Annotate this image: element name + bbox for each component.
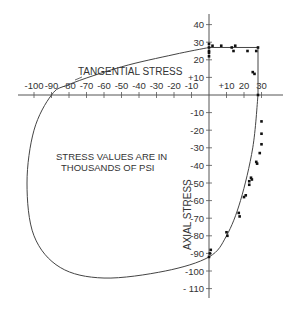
data-point bbox=[256, 162, 259, 165]
x-tick-label: -20 bbox=[167, 80, 181, 91]
data-point bbox=[243, 196, 246, 199]
y-tick-labels: 403020+10-10-20-30-40-50-60-70-80-90-100… bbox=[183, 19, 204, 294]
y-tick-label: 40 bbox=[193, 19, 204, 30]
data-point bbox=[248, 180, 251, 183]
y-axis-label: AXIAL STRESS bbox=[182, 179, 193, 250]
data-point bbox=[238, 215, 241, 218]
y-tick-label: -10 bbox=[190, 107, 204, 118]
x-tick-labels: -100-90-80-70-60-50-40-30-20-10+102030 bbox=[24, 80, 266, 91]
data-point bbox=[246, 50, 249, 53]
data-point bbox=[234, 44, 237, 47]
y-tick-label: 30 bbox=[193, 37, 204, 48]
data-point bbox=[260, 143, 263, 146]
data-point bbox=[211, 44, 214, 47]
data-point bbox=[258, 152, 261, 155]
data-point bbox=[226, 235, 229, 238]
x-tick-label: -60 bbox=[97, 80, 111, 91]
data-point bbox=[230, 46, 233, 49]
data-point bbox=[208, 55, 211, 58]
stress-chart: -100-90-80-70-60-50-40-30-20-10+102030 4… bbox=[0, 0, 295, 309]
x-tick-label: -30 bbox=[150, 80, 164, 91]
data-point bbox=[255, 50, 258, 53]
data-points bbox=[208, 43, 263, 259]
x-tick-label: -100 bbox=[24, 80, 43, 91]
x-axis-label: TANGENTIAL STRESS bbox=[78, 66, 183, 77]
data-point bbox=[237, 212, 240, 215]
data-point bbox=[251, 178, 254, 181]
data-point bbox=[248, 183, 251, 186]
y-tick-label: - 110 bbox=[183, 283, 204, 294]
data-point bbox=[225, 231, 228, 234]
units-note-line-2: THOUSANDS OF PSI bbox=[61, 162, 154, 173]
data-point bbox=[253, 73, 256, 76]
x-tick-label: -40 bbox=[132, 80, 146, 91]
x-tick-label: -50 bbox=[115, 80, 129, 91]
x-tick-label: +10 bbox=[218, 80, 234, 91]
data-point bbox=[209, 249, 212, 252]
data-point bbox=[257, 94, 260, 97]
y-tick-label: -30 bbox=[190, 142, 204, 153]
data-point bbox=[208, 43, 211, 46]
y-tick-label: -100 bbox=[185, 266, 204, 277]
data-point bbox=[260, 132, 263, 135]
y-tick-label: +10 bbox=[188, 72, 204, 83]
y-tick-label: -40 bbox=[190, 160, 204, 171]
data-point bbox=[209, 252, 212, 255]
data-point bbox=[208, 256, 211, 259]
data-point bbox=[208, 51, 211, 54]
x-tick-label: -80 bbox=[62, 80, 76, 91]
data-point bbox=[257, 46, 260, 49]
data-point bbox=[208, 46, 211, 49]
data-point bbox=[260, 120, 263, 123]
data-point bbox=[220, 44, 223, 47]
units-note-line-1: STRESS VALUES ARE IN bbox=[56, 151, 167, 162]
y-tick-label: 20 bbox=[193, 54, 204, 65]
y-tick-label: -20 bbox=[190, 125, 204, 136]
x-tick-label: -70 bbox=[80, 80, 94, 91]
data-point bbox=[232, 50, 235, 53]
x-tick-label: 20 bbox=[239, 80, 250, 91]
